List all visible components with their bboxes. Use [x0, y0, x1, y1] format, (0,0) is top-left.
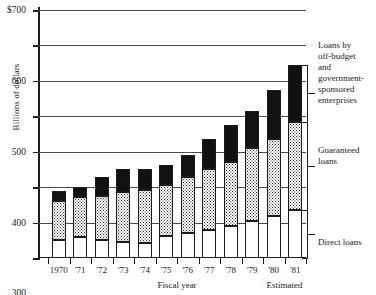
bar-segment-guaranteed-loans	[159, 185, 173, 236]
bar-segment-guaranteed-loans	[138, 190, 152, 243]
legend-bracket-cap	[302, 122, 308, 123]
legend-bracket-cap	[302, 258, 308, 259]
x-axis-tick-label: '75	[161, 265, 172, 275]
plot-area: 0100200300400500600$700	[38, 10, 306, 258]
x-axis-tick	[177, 258, 178, 264]
y-axis-tick-label: 400	[12, 218, 26, 228]
bar-segment-off-budget-loans	[73, 187, 87, 197]
x-axis-tick-label: '72	[96, 265, 107, 275]
bar-segment-guaranteed-loans	[267, 139, 281, 215]
x-axis-tick	[220, 258, 221, 264]
x-axis-tick	[285, 258, 286, 264]
bar-segment-off-budget-loans	[95, 177, 109, 196]
x-axis-labels: 1970'71'72'73'74'75'76'77'78'79'80'81	[38, 265, 306, 277]
chart-figure: Billions of dollars 0100200300400500600$…	[0, 0, 376, 295]
x-axis-tick-label: '79	[247, 265, 258, 275]
y-axis-tick-label: 300	[12, 288, 26, 295]
bar-segment-off-budget-loans	[138, 169, 152, 190]
legend-bracket-cap	[302, 210, 308, 211]
y-axis-tick-label: $700	[7, 5, 26, 15]
x-axis-tick-label: '78	[225, 265, 236, 275]
bar-segment-direct-loans	[73, 237, 87, 258]
legend-item-offbudget: Loans by off-budget and government- spon…	[318, 40, 376, 106]
bar-column	[116, 169, 130, 258]
bar-segment-off-budget-loans	[245, 111, 259, 148]
bar-segment-off-budget-loans	[224, 125, 238, 162]
y-axis-tick-label: 600	[12, 76, 26, 86]
estimated-note: Estimated	[267, 280, 303, 290]
x-axis-tick	[91, 258, 92, 264]
x-axis-tick-label: '77	[204, 265, 215, 275]
bar-column	[245, 111, 259, 258]
bar-segment-guaranteed-loans	[95, 196, 109, 240]
bar-segment-direct-loans	[138, 243, 152, 258]
x-axis-tick-label: '71	[75, 265, 86, 275]
legend-item-guaranteed: Guaranteed loans	[318, 145, 359, 167]
bar-column	[267, 90, 281, 258]
bar-segment-direct-loans	[95, 240, 109, 258]
bar-column	[138, 169, 152, 258]
x-axis-tick	[263, 258, 264, 264]
bar-segment-direct-loans	[245, 221, 259, 258]
bar-segment-off-budget-loans	[159, 165, 173, 184]
x-axis-tick	[199, 258, 200, 264]
bar-segment-off-budget-loans	[181, 155, 195, 177]
x-axis-tick-label: '74	[139, 265, 150, 275]
bar-segment-guaranteed-loans	[52, 201, 66, 240]
bar-column	[224, 125, 238, 258]
legend-bracket-cap	[302, 65, 308, 66]
x-axis-tick-label: '81	[290, 265, 301, 275]
bar-segment-guaranteed-loans	[116, 192, 130, 242]
bar-segment-direct-loans	[159, 236, 173, 258]
bar-segment-guaranteed-loans	[288, 122, 302, 211]
bar-segment-direct-loans	[288, 210, 302, 258]
bar-segment-off-budget-loans	[52, 191, 66, 202]
legend-leader-line	[307, 93, 315, 94]
bar-column	[288, 65, 302, 258]
bar-segment-guaranteed-loans	[202, 169, 216, 230]
y-axis-title: Billions of dollars	[11, 37, 21, 157]
bar-segment-direct-loans	[181, 233, 195, 258]
legend-leader-line	[307, 166, 315, 167]
x-axis-title: Fiscal year	[157, 280, 196, 290]
bar-segment-guaranteed-loans	[224, 162, 238, 226]
bar-column	[159, 165, 173, 258]
y-axis-tick-label: 500	[12, 147, 26, 157]
bar-column	[52, 191, 66, 258]
x-axis-tick-label: '80	[268, 265, 279, 275]
x-axis-tick-label: '76	[182, 265, 193, 275]
bar-segment-off-budget-loans	[288, 65, 302, 122]
x-axis-tick-label: '73	[118, 265, 129, 275]
x-axis-tick	[113, 258, 114, 264]
bar-column	[95, 177, 109, 258]
legend-leader-line	[307, 234, 315, 235]
bar-segment-guaranteed-loans	[181, 177, 195, 233]
bar-segment-off-budget-loans	[116, 169, 130, 192]
bar-column	[202, 139, 216, 258]
x-axis-tick	[48, 258, 49, 264]
bar-segment-off-budget-loans	[202, 139, 216, 169]
bar-segment-direct-loans	[52, 240, 66, 258]
bar-group	[38, 10, 306, 258]
bar-segment-direct-loans	[224, 226, 238, 258]
x-axis-tick	[156, 258, 157, 264]
bar-column	[181, 155, 195, 258]
bar-segment-direct-loans	[116, 242, 130, 258]
x-axis-ticks	[38, 258, 306, 264]
bar-segment-off-budget-loans	[267, 90, 281, 140]
bar-segment-guaranteed-loans	[73, 197, 87, 237]
bar-segment-direct-loans	[267, 216, 281, 259]
x-axis-tick-label: 1970	[50, 265, 68, 275]
bar-segment-direct-loans	[202, 230, 216, 258]
bar-segment-guaranteed-loans	[245, 148, 259, 221]
x-axis-tick	[70, 258, 71, 264]
legend-item-direct: Direct loans	[318, 237, 362, 248]
x-axis-tick	[134, 258, 135, 264]
bar-column	[73, 187, 87, 258]
x-axis-tick	[242, 258, 243, 264]
